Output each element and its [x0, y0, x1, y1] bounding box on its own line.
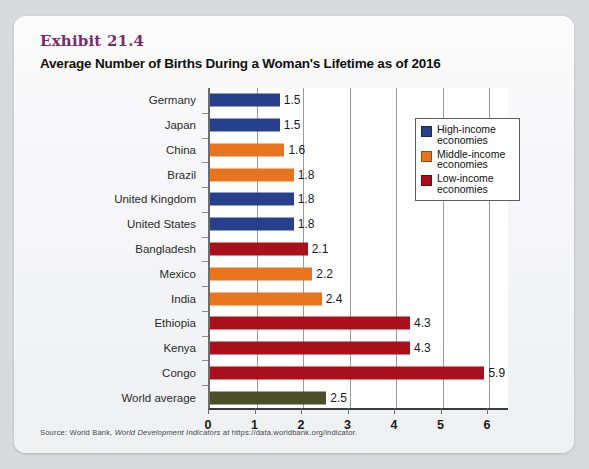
bar-germany: [210, 94, 280, 107]
category-label-ethiopia: Ethiopia: [154, 317, 196, 329]
source-note: Source: World Bank, World Development In…: [40, 428, 357, 437]
bar-value-label: 1.6: [288, 143, 305, 157]
bar-value-label: 2.5: [330, 391, 347, 405]
chart-legend: High-incomeeconomiesMiddle-incomeeconomi…: [415, 118, 520, 201]
x-tick-label: 4: [391, 418, 398, 432]
legend-row: High-incomeeconomies: [421, 124, 513, 146]
category-label-united-kingdom: United Kingdom: [114, 193, 196, 205]
legend-swatch-icon: [421, 151, 432, 162]
x-tick-label: 6: [484, 418, 491, 432]
bar-value-label: 2.1: [312, 242, 329, 256]
category-label-china: China: [166, 144, 196, 156]
bar-value-label: 1.5: [284, 93, 301, 107]
exhibit-card: Exhibit 21.4 Average Number of Births Du…: [14, 16, 574, 453]
bar-value-label: 2.2: [316, 267, 333, 281]
category-label-mexico: Mexico: [160, 268, 196, 280]
x-tick-mark: [208, 408, 209, 414]
bar-value-label: 1.8: [298, 217, 315, 231]
category-label-germany: Germany: [149, 94, 196, 106]
bar-ethiopia: [210, 317, 410, 330]
chart-plot-wrapper: GermanyJapanChinaBrazilUnited KingdomUni…: [208, 88, 518, 418]
gridline: [396, 88, 397, 408]
category-label-congo: Congo: [162, 367, 196, 379]
x-tick-label: 5: [437, 418, 444, 432]
bar-value-label: 5.9: [488, 366, 505, 380]
legend-label: High-incomeeconomies: [437, 124, 496, 146]
bar-value-label: 1.8: [298, 168, 315, 182]
x-tick-mark: [441, 408, 442, 414]
bar-value-label: 4.3: [414, 341, 431, 355]
source-prefix: Source: World Bank,: [40, 428, 115, 437]
category-label-japan: Japan: [165, 119, 196, 131]
bar-value-label: 2.4: [326, 292, 343, 306]
bar-mexico: [210, 267, 312, 280]
source-suffix: at https://data.worldbank.org/indicator.: [221, 428, 358, 437]
category-label-india: India: [171, 293, 196, 305]
bar-united-kingdom: [210, 193, 294, 206]
category-label-world-average: World average: [121, 392, 196, 404]
category-label-united-states: United States: [127, 218, 196, 230]
source-title: World Development Indicators: [115, 428, 221, 437]
category-axis: GermanyJapanChinaBrazilUnited KingdomUni…: [98, 88, 202, 410]
x-tick-mark: [394, 408, 395, 414]
bar-united-states: [210, 218, 294, 231]
category-label-kenya: Kenya: [163, 342, 196, 354]
bar-china: [210, 143, 284, 156]
gridline: [350, 88, 351, 408]
legend-row: Low-incomeeconomies: [421, 173, 513, 195]
category-label-bangladesh: Bangladesh: [135, 243, 196, 255]
bar-india: [210, 292, 322, 305]
bar-world-average: [210, 391, 326, 404]
bar-value-label: 4.3: [414, 316, 431, 330]
chart-title: Average Number of Births During a Woman'…: [40, 56, 441, 71]
bar-brazil: [210, 168, 294, 181]
legend-label: Middle-incomeeconomies: [437, 149, 505, 171]
x-tick-mark: [487, 408, 488, 414]
bar-value-label: 1.5: [284, 118, 301, 132]
legend-swatch-icon: [421, 175, 432, 186]
x-tick-mark: [301, 408, 302, 414]
bar-value-label: 1.8: [298, 192, 315, 206]
exhibit-label: Exhibit 21.4: [40, 32, 144, 50]
bar-kenya: [210, 342, 410, 355]
bar-congo: [210, 366, 484, 379]
legend-swatch-icon: [421, 126, 432, 137]
bar-japan: [210, 119, 280, 132]
x-tick-mark: [255, 408, 256, 414]
legend-row: Middle-incomeeconomies: [421, 149, 513, 171]
bar-bangladesh: [210, 243, 308, 256]
x-tick-mark: [348, 408, 349, 414]
legend-label: Low-incomeeconomies: [437, 173, 494, 195]
category-label-brazil: Brazil: [167, 169, 196, 181]
